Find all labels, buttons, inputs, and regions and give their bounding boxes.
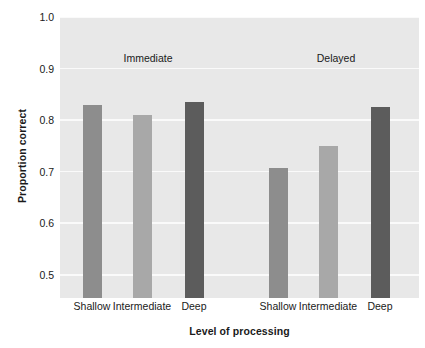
bar-delayed-intermediate[interactable] — [319, 146, 338, 298]
gridline — [60, 17, 419, 18]
bar-immediate-intermediate[interactable] — [133, 115, 152, 298]
bar-immediate-shallow[interactable] — [83, 105, 102, 298]
x-axis-tick-label: Deep — [181, 300, 206, 312]
y-axis-tick-label: 0.5 — [24, 269, 54, 281]
gridline — [60, 68, 419, 70]
group-label-immediate: Immediate — [123, 52, 172, 64]
y-axis-tick-label: 0.6 — [24, 217, 54, 229]
y-axis-tick-label: 0.9 — [24, 63, 54, 75]
bar-delayed-deep[interactable] — [371, 107, 390, 298]
y-axis-tick-label: 0.8 — [24, 114, 54, 126]
x-axis-tick-label: Shallow — [74, 300, 111, 312]
plot-area: ImmediateDelayed — [60, 17, 419, 298]
x-axis-title: Level of processing — [60, 325, 419, 337]
gridline — [60, 222, 419, 224]
x-axis-tick-labels: ShallowIntermediateDeepShallowIntermedia… — [60, 300, 419, 316]
gridline — [60, 119, 419, 121]
x-axis-tick-label: Shallow — [260, 300, 297, 312]
gridline — [60, 274, 419, 276]
y-axis-tick-labels: 1.00.90.80.70.60.5 — [22, 0, 54, 348]
bar-delayed-shallow[interactable] — [269, 168, 288, 298]
y-axis-tick-label: 0.7 — [24, 166, 54, 178]
bar-immediate-deep[interactable] — [185, 102, 204, 298]
x-axis-tick-label: Deep — [367, 300, 392, 312]
x-axis-tick-label: Intermediate — [113, 300, 171, 312]
y-axis-tick-label: 1.0 — [24, 11, 54, 23]
gridline — [60, 171, 419, 173]
bar-chart-figure: Proportion correct 1.00.90.80.70.60.5 Im… — [0, 0, 425, 348]
x-axis-tick-label: Intermediate — [299, 300, 357, 312]
group-label-delayed: Delayed — [317, 52, 356, 64]
